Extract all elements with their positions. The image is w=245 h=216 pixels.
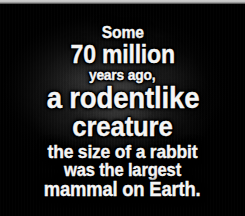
caption-text-block: Some 70 million years ago, a rodentlike … xyxy=(0,0,245,216)
title-card-image: Some 70 million years ago, a rodentlike … xyxy=(0,0,245,216)
caption-line: was the largest xyxy=(64,161,181,179)
caption-line: mammal on Earth. xyxy=(44,179,201,199)
caption-line: creature xyxy=(72,113,172,141)
caption-line: the size of a rabbit xyxy=(48,142,198,161)
caption-line: years ago, xyxy=(89,67,155,82)
caption-line: Some xyxy=(102,24,144,41)
caption-line: 70 million xyxy=(70,42,174,67)
caption-line: a rodentlike xyxy=(46,83,199,113)
